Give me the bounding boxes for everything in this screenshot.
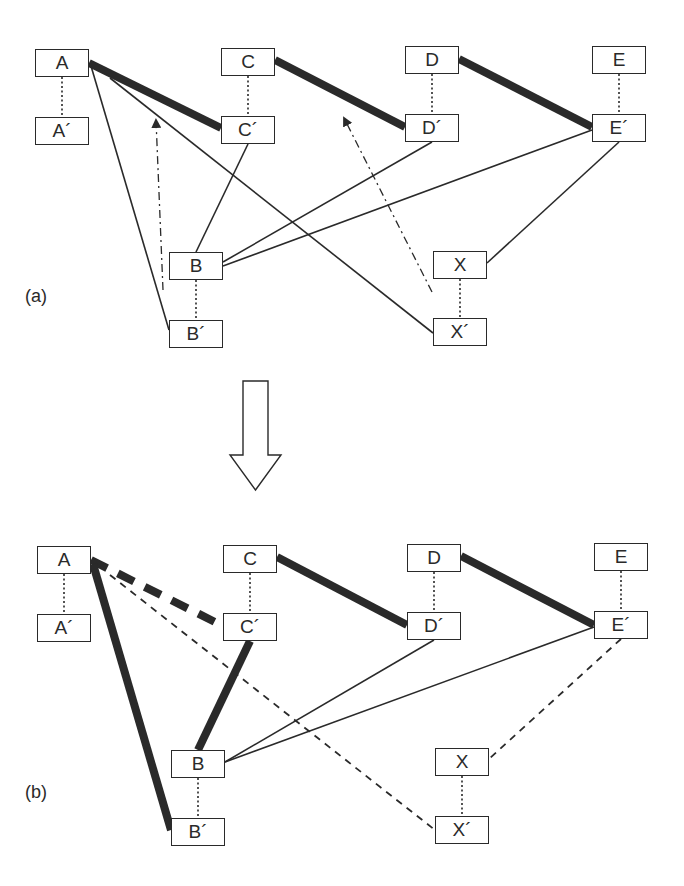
node-e-panel-a: E xyxy=(592,46,646,74)
node-c-panel-a: C xyxy=(221,48,275,76)
edge-thick-panel-a xyxy=(459,59,592,127)
node-label: E xyxy=(615,546,628,568)
node-a-prime-panel-a: A´ xyxy=(35,117,89,145)
node-e-prime-panel-a: E´ xyxy=(592,114,646,142)
node-b-prime-panel-a: B´ xyxy=(169,320,223,348)
edge-thick-panel-b xyxy=(277,557,407,625)
panel-label-b: (b) xyxy=(25,782,47,803)
node-d-prime-panel-a: D´ xyxy=(405,114,459,142)
edge-thin-panel-b xyxy=(225,627,594,762)
diagram-canvas xyxy=(0,0,684,886)
dashdot-arrow-panel-a xyxy=(344,118,432,292)
node-label: D´ xyxy=(422,117,442,139)
dashdot-arrow-panel-a xyxy=(156,120,163,290)
node-label: X´ xyxy=(453,819,472,841)
node-label: A´ xyxy=(55,617,74,639)
node-x-prime-panel-a: X´ xyxy=(433,318,487,346)
edge-thick-panel-b xyxy=(461,556,594,625)
edge-thick-panel-a xyxy=(275,60,405,127)
panel-label-a: (a) xyxy=(25,286,47,307)
node-label: B xyxy=(192,753,205,775)
node-b-panel-b: B xyxy=(171,750,225,778)
node-c-panel-b: C xyxy=(223,545,277,573)
node-b-panel-a: B xyxy=(169,252,223,280)
edge-thin-panel-b xyxy=(225,640,434,762)
node-label: D xyxy=(427,547,441,569)
edge-thin-panel-a xyxy=(223,142,432,262)
node-x-prime-panel-b: X´ xyxy=(435,816,489,844)
node-d-prime-panel-b: D´ xyxy=(407,612,461,640)
node-label: B´ xyxy=(189,821,208,843)
node-label: B xyxy=(190,255,203,277)
edge-thick-panel-b xyxy=(93,564,171,830)
node-label: C xyxy=(243,548,257,570)
node-label: X´ xyxy=(451,321,470,343)
edge-dashed-panel-b xyxy=(489,639,621,759)
node-label: D xyxy=(425,49,439,71)
node-a-panel-b: A xyxy=(37,546,91,574)
node-label: A xyxy=(58,549,71,571)
node-label: A xyxy=(56,52,69,74)
node-b-prime-panel-b: B´ xyxy=(171,818,225,846)
node-label: C´ xyxy=(238,119,258,141)
node-label: E xyxy=(613,49,626,71)
node-d-panel-a: D xyxy=(405,46,459,74)
node-d-panel-b: D xyxy=(407,544,461,572)
node-label: C´ xyxy=(240,616,260,638)
edge-thin-panel-a xyxy=(223,130,592,266)
node-label: D´ xyxy=(424,615,444,637)
edge-thin-panel-a xyxy=(91,66,169,330)
node-x-panel-a: X xyxy=(433,251,487,279)
down-arrow-icon xyxy=(230,381,281,490)
node-label: B´ xyxy=(187,323,206,345)
edge-thin-panel-a xyxy=(196,144,248,252)
node-x-panel-b: X xyxy=(435,748,489,776)
edge-thick-panel-a xyxy=(89,63,221,128)
node-c-prime-panel-b: C´ xyxy=(223,613,277,641)
node-label: A´ xyxy=(53,120,72,142)
node-label: X xyxy=(456,751,469,773)
node-label: E´ xyxy=(610,117,629,139)
node-a-prime-panel-b: A´ xyxy=(37,614,91,642)
node-label: E´ xyxy=(612,614,631,636)
node-c-prime-panel-a: C´ xyxy=(221,116,275,144)
node-e-prime-panel-b: E´ xyxy=(594,611,648,639)
edge-thick-panel-b xyxy=(198,641,250,750)
node-a-panel-a: A xyxy=(35,49,89,77)
node-label: C xyxy=(241,51,255,73)
node-label: X xyxy=(454,254,467,276)
node-e-panel-b: E xyxy=(594,543,648,571)
edge-thin-panel-a xyxy=(487,142,619,263)
edges-layer xyxy=(62,59,621,830)
